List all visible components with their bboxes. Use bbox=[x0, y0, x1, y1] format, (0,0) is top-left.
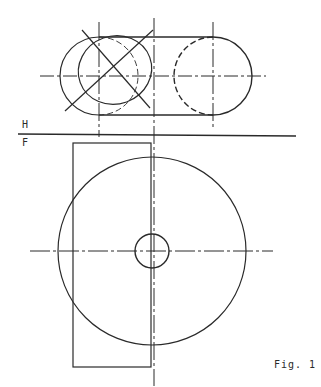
front-view bbox=[30, 143, 273, 367]
front-rectangle bbox=[73, 143, 151, 367]
plane-label-h: H bbox=[22, 119, 28, 130]
section-ellipse bbox=[69, 25, 162, 114]
technical-drawing bbox=[0, 0, 321, 387]
figure-caption: Fig. 1 bbox=[274, 359, 316, 370]
plane-label-f: F bbox=[22, 137, 28, 148]
fold-line bbox=[18, 134, 296, 136]
